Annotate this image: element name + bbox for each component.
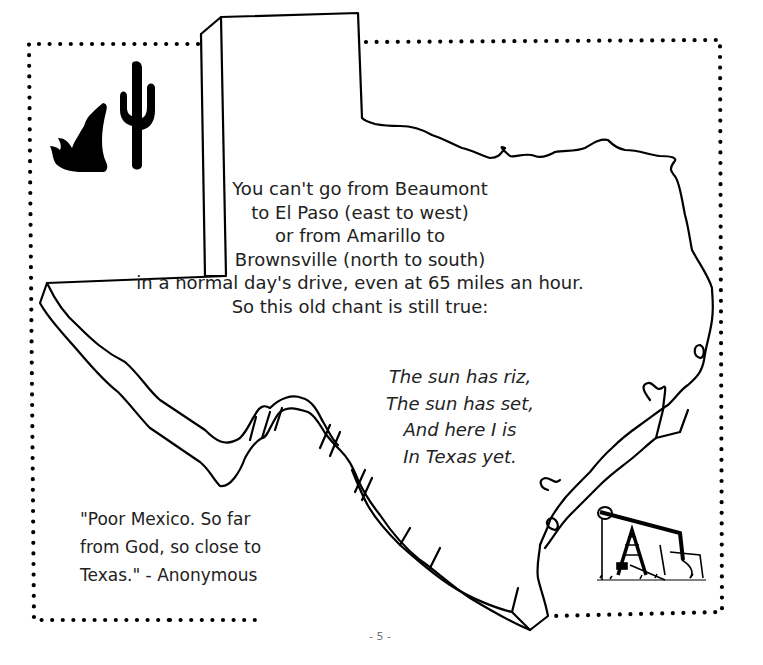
chant-verse: The sun has riz, The sun has set, And he… [360,365,560,471]
main-text-line: or from Amarillo to [120,224,600,248]
chant-line: In Texas yet. [360,445,560,472]
quote-line: from God, so close to [80,533,261,561]
quote-line: Texas." - Anonymous [80,561,261,589]
chant-line: The sun has riz, [360,365,560,392]
main-text-line: So this old chant is still true: [120,295,600,319]
main-paragraph: You can't go from Beaumont to El Paso (e… [120,177,600,318]
mexico-quote: "Poor Mexico. So far from God, so close … [80,505,261,589]
saguaro-cactus-icon [120,61,155,169]
main-text-line: in a normal day's drive, even at 65 mile… [120,271,600,295]
chant-line: The sun has set, [360,392,560,419]
page-number: - 5 - [355,630,405,643]
quote-line: "Poor Mexico. So far [80,505,261,533]
main-text-line: Brownsville (north to south) [120,248,600,272]
howling-coyote-icon [50,103,107,172]
main-text-line: You can't go from Beaumont [120,177,600,201]
oil-pumpjack-icon [597,507,706,580]
chant-line: And here I is [360,418,560,445]
main-text-line: to El Paso (east to west) [120,201,600,225]
